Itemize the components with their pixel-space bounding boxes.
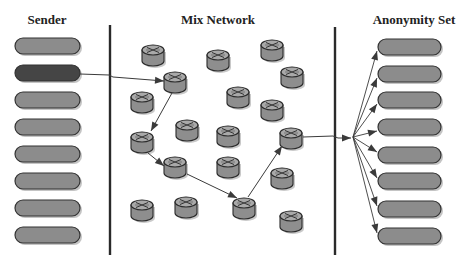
anonymity-member-6 [378,173,443,191]
router-icon [261,100,285,123]
pill-body [378,39,441,55]
pill-body [15,227,80,243]
pill-body [15,200,80,216]
arrowhead-icon [155,158,164,166]
router-icon [175,197,199,220]
router-icon [281,67,305,90]
router-icon [131,132,155,155]
anonymity-member-1 [378,39,443,57]
arrowhead-icon [367,130,377,137]
mix-routers [131,40,305,234]
fan-arrow-4 [353,130,377,137]
sender-5 [15,146,82,164]
router-icon [280,128,304,151]
router-icon [142,45,166,68]
hop-2-arrow [148,153,164,166]
fan-out-arrows [353,51,378,233]
fan-arrow-1 [353,51,378,137]
router-icon [131,92,155,115]
router-icon [280,211,304,234]
router-icon [131,200,155,223]
router-icon [271,168,295,191]
sender-4 [15,119,82,137]
pill-body [15,173,80,189]
hop-1-arrow [151,93,172,131]
arrowhead-icon [371,223,378,233]
router-icon [227,87,251,110]
router-icon [164,72,188,95]
anonymity-member-7 [378,201,443,219]
arrowhead-icon [369,104,377,113]
router-icon [176,120,200,143]
diagram-canvas [0,0,464,269]
anonymity-member-3 [378,92,443,110]
sender-column [15,38,82,245]
anonymity-member-2 [378,66,443,84]
message-route [80,74,351,198]
sender-8 [15,227,82,245]
sender-7 [15,200,82,218]
anonymity-member-8 [378,228,443,246]
pill-body [378,147,441,163]
arrowhead-icon [368,144,377,152]
pill-body [15,119,80,135]
anonymity-member-4 [378,119,443,137]
pill-body [378,92,441,108]
router-icon [217,157,241,180]
arrowhead-icon [151,121,158,131]
pill-body [15,38,80,54]
arrowhead-icon [371,51,378,61]
pill-body [378,173,441,189]
router-icon [164,157,188,180]
router-icon [217,126,241,149]
arrowhead-icon [155,77,164,84]
pill-body [378,228,441,244]
router-icon [207,50,231,73]
sender-active [15,65,82,83]
pill-body [15,65,80,81]
sender-6 [15,173,82,191]
sender-3 [15,92,82,110]
arrowhead-icon [274,146,282,155]
sender-1 [15,38,82,56]
arrowhead-icon [370,78,377,88]
pill-body [378,119,441,135]
anonymity-set-column [378,39,443,246]
pill-body [378,201,441,217]
arrowhead-icon [227,191,237,198]
anonymity-member-5 [378,147,443,165]
arrowhead-icon [342,135,351,142]
pill-body [15,146,80,162]
sender-to-mix-arrow [80,74,164,84]
mix-network-diagram: Sender Mix Network Anonymity Set [0,0,464,269]
arrowhead-icon [369,168,377,178]
pill-body [378,66,441,82]
pill-body [15,92,80,108]
router-icon [261,40,285,63]
router-icon [233,198,257,221]
mix-exit-arrow [303,135,351,142]
arrowhead-icon [371,196,378,206]
